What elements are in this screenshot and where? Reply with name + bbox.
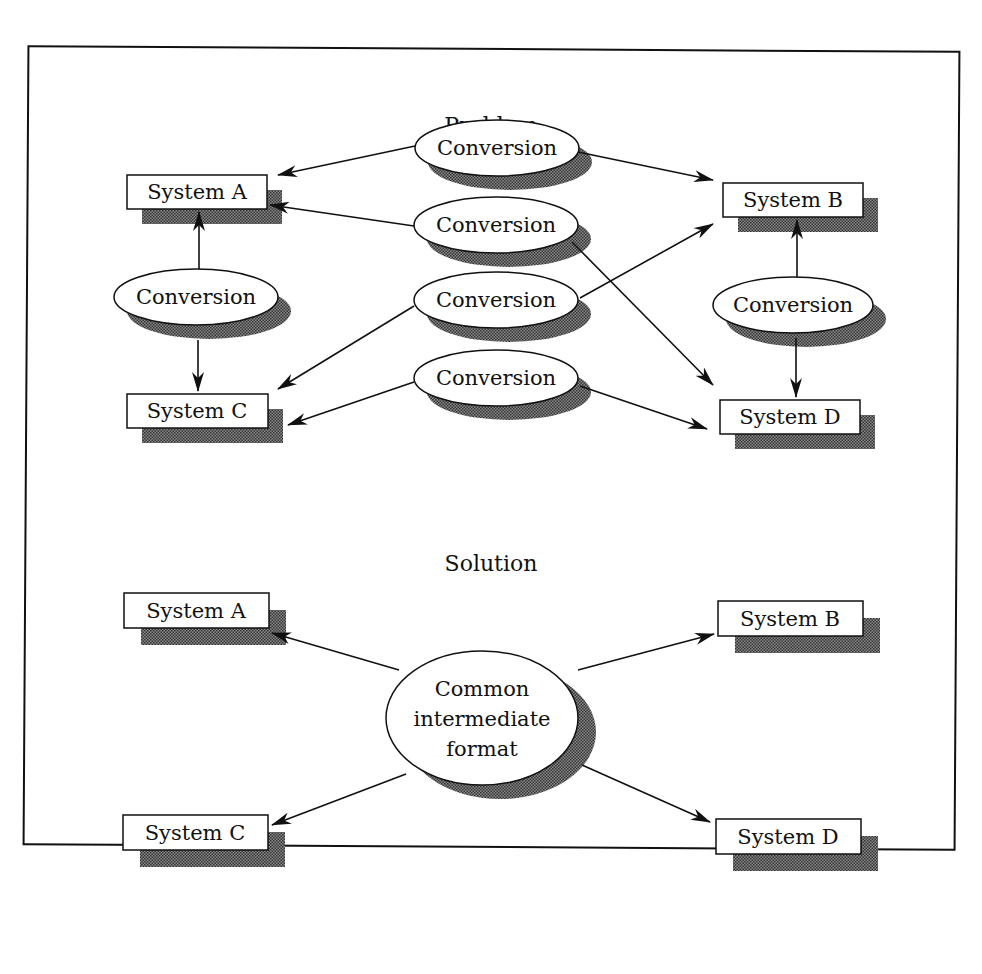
system-a-label: System A (147, 180, 247, 204)
arrow-conv1-to-system-b (578, 152, 713, 180)
hub-label-line-1: Common (435, 677, 530, 701)
conversion-label: Conversion (436, 213, 556, 237)
arrow-hub-to-system-b (578, 634, 714, 670)
system-c-label: System C (147, 399, 248, 423)
system-d-label: System D (739, 405, 840, 429)
hub-label-line-2: intermediate (413, 707, 550, 731)
problem-system-b: System B (723, 183, 863, 217)
common-intermediate-format-node: Common intermediate format (386, 651, 578, 785)
arrow-hub-to-system-d (582, 765, 710, 822)
arrow-conv4-to-system-c (288, 382, 414, 425)
problem-system-a: System A (127, 175, 267, 209)
arrow-conv1-to-system-a (278, 146, 415, 175)
arrow-conv4-to-system-d (580, 386, 707, 429)
system-d-label: System D (737, 825, 838, 849)
conversion-label: Conversion (733, 293, 853, 317)
problem-system-d: System D (720, 400, 860, 434)
system-c-label: System C (145, 821, 246, 845)
hub-label-line-3: format (446, 737, 518, 761)
solution-system-b: System B (718, 601, 863, 636)
system-b-label: System B (743, 188, 843, 212)
system-a-label: System A (146, 599, 246, 623)
conversion-label: Conversion (436, 288, 556, 312)
arrow-conv2-to-system-a (270, 205, 414, 226)
conversion-node-left: Conversion (114, 269, 278, 325)
problem-system-c: System C (127, 394, 268, 428)
conversion-label: Conversion (436, 366, 556, 390)
conversion-node-bottom: Conversion (414, 350, 578, 406)
conversion-node-second: Conversion (414, 197, 578, 253)
solution-system-d: System D (716, 819, 861, 854)
solution-system-c: System C (123, 815, 268, 850)
system-b-label: System B (740, 607, 840, 631)
conversion-node-top: Conversion (415, 120, 579, 176)
conversion-node-right: Conversion (713, 277, 873, 333)
conversion-node-third: Conversion (414, 272, 578, 328)
solution-title: Solution (445, 551, 538, 576)
problem-solution-diagram: Problem Solution Syste (0, 0, 982, 974)
arrow-conv3-to-system-c (278, 306, 414, 389)
arrow-hub-to-system-a (272, 633, 399, 670)
solution-system-a: System A (124, 593, 269, 628)
arrow-hub-to-system-c (272, 774, 406, 825)
arrow-conv3-to-system-b (580, 224, 713, 298)
conversion-label: Conversion (136, 285, 256, 309)
conversion-label: Conversion (437, 136, 557, 160)
